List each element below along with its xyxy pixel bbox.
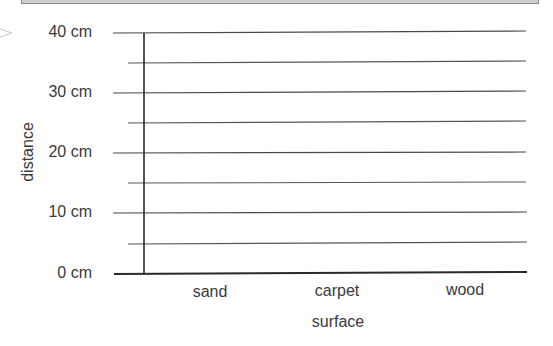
gridline-15 bbox=[128, 182, 526, 183]
y-tick-0: 0 cm bbox=[0, 264, 92, 282]
gridline-25 bbox=[128, 121, 526, 123]
gridline-40 bbox=[113, 31, 526, 33]
y-tick-10: 10 cm bbox=[0, 203, 92, 221]
y-tick-40: 40 cm bbox=[0, 23, 92, 41]
gridline-30 bbox=[113, 91, 526, 93]
x-axis-label: surface bbox=[278, 313, 398, 331]
gridline-10 bbox=[113, 212, 527, 213]
gridline-5 bbox=[128, 242, 527, 244]
x-category-wood: wood bbox=[415, 281, 515, 299]
y-axis-label: distance bbox=[19, 117, 37, 187]
x-category-carpet: carpet bbox=[287, 282, 387, 300]
gridline-35 bbox=[128, 61, 526, 63]
gridline-20 bbox=[113, 152, 526, 153]
x-category-sand: sand bbox=[160, 283, 260, 301]
y-tick-20: 20 cm bbox=[0, 143, 92, 161]
x-axis bbox=[114, 272, 527, 274]
y-tick-30: 30 cm bbox=[0, 83, 92, 101]
